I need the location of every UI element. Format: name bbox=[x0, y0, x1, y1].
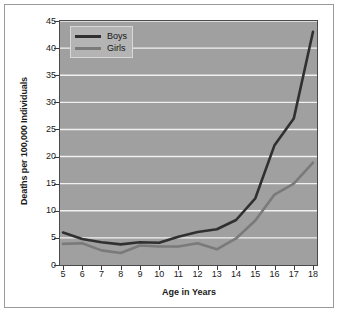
series-line-boys bbox=[63, 32, 313, 245]
x-tick-label: 14 bbox=[227, 270, 245, 279]
y-tick-label: 10 bbox=[34, 206, 56, 215]
line-chart: Deaths per 100,000 Individuals 051015202… bbox=[0, 0, 340, 314]
legend-label-girls: Girls bbox=[107, 44, 126, 53]
y-tick-label: 45 bbox=[34, 17, 56, 26]
x-tick-label: 11 bbox=[169, 270, 187, 279]
x-tick-label: 17 bbox=[285, 270, 303, 279]
y-tick-label: 0 bbox=[34, 261, 56, 270]
series-line-girls bbox=[63, 163, 313, 254]
legend-item-boys: Boys bbox=[75, 30, 127, 42]
x-tick-label: 6 bbox=[73, 270, 91, 279]
legend-item-girls: Girls bbox=[75, 42, 127, 54]
legend-swatch-girls bbox=[75, 47, 101, 50]
x-tick-label: 8 bbox=[112, 270, 130, 279]
legend-label-boys: Boys bbox=[107, 32, 127, 41]
x-tick-label: 7 bbox=[92, 270, 110, 279]
x-axis-title: Age in Years bbox=[60, 287, 318, 297]
x-tick-label: 10 bbox=[150, 270, 168, 279]
x-tick-label: 5 bbox=[54, 270, 72, 279]
y-tick-label: 20 bbox=[34, 152, 56, 161]
y-tick-label: 40 bbox=[34, 44, 56, 53]
y-axis-tick-labels: 051015202530354045 bbox=[30, 20, 56, 266]
legend: Boys Girls bbox=[70, 26, 133, 58]
y-tick-label: 25 bbox=[34, 125, 56, 134]
plot-wrapper: Boys Girls bbox=[59, 20, 318, 266]
x-axis-tick-labels: 56789101112131415161718 bbox=[59, 269, 318, 283]
y-tick-label: 5 bbox=[34, 233, 56, 242]
x-tick-label: 16 bbox=[266, 270, 284, 279]
x-tick-label: 18 bbox=[304, 270, 322, 279]
plot-area: Boys Girls bbox=[59, 20, 318, 266]
y-tick-label: 35 bbox=[34, 71, 56, 80]
x-tick-label: 12 bbox=[189, 270, 207, 279]
x-tick-label: 13 bbox=[208, 270, 226, 279]
y-axis-title: Deaths per 100,000 Individuals bbox=[19, 41, 29, 241]
legend-swatch-boys bbox=[75, 35, 101, 38]
x-tick-label: 15 bbox=[246, 270, 264, 279]
x-tick-label: 9 bbox=[131, 270, 149, 279]
y-tick-label: 15 bbox=[34, 179, 56, 188]
y-tick-label: 30 bbox=[34, 98, 56, 107]
